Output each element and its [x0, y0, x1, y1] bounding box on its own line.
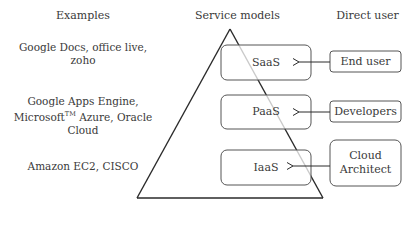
label-saas-text: SaaS: [252, 56, 280, 70]
label-paas: PaaS: [221, 95, 311, 129]
label-end-user-text: End user: [340, 55, 390, 69]
label-end-user: End user: [330, 51, 401, 72]
label-saas: SaaS: [221, 45, 311, 80]
label-paas-text: PaaS: [252, 105, 280, 119]
label-developers: Developers: [330, 101, 401, 122]
label-cloud-architect-line2: Architect: [340, 163, 391, 177]
label-iaas-text: IaaS: [254, 161, 279, 175]
label-iaas: IaaS: [221, 150, 311, 185]
label-cloud-architect-line1: Cloud: [349, 149, 382, 163]
label-cloud-architect: Cloud Architect: [330, 140, 401, 186]
label-developers-text: Developers: [334, 105, 397, 119]
